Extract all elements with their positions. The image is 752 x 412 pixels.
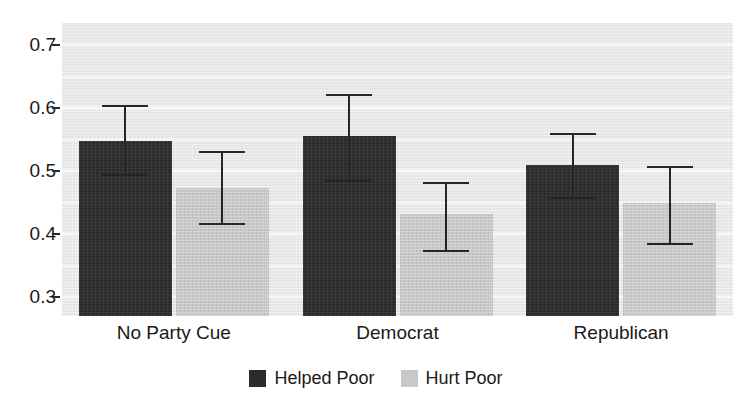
legend-item: Hurt Poor <box>401 368 503 389</box>
error-bar-cap-bottom <box>550 197 596 199</box>
bar-chart-figure: 0.30.40.50.60.7 No Party CueDemocratRepu… <box>0 0 752 412</box>
error-bar-cap-bottom <box>102 174 148 176</box>
error-bar-stem <box>572 133 574 200</box>
y-axis-tick-mark <box>52 44 60 46</box>
error-bar-stem <box>221 151 223 225</box>
error-bar-cap-top <box>550 133 596 135</box>
legend-swatch-hurt <box>401 370 418 387</box>
legend-label: Hurt Poor <box>426 368 503 389</box>
y-axis-tick-mark <box>52 107 60 109</box>
gridline-minor <box>62 76 733 78</box>
error-bar-cap-bottom <box>199 223 245 225</box>
y-axis-tick-mark <box>52 296 60 298</box>
error-bar-cap-top <box>647 166 693 168</box>
y-axis-tick-mark <box>52 233 60 235</box>
error-bar-cap-top <box>423 182 469 184</box>
error-bar-stem <box>445 182 447 251</box>
y-axis-tick-label: 0.6 <box>10 97 56 119</box>
legend-item: Helped Poor <box>249 368 374 389</box>
y-axis-tick-label: 0.4 <box>10 223 56 245</box>
x-axis-category-labels: No Party CueDemocratRepublican <box>62 322 733 352</box>
error-bar-cap-top <box>199 151 245 153</box>
gridline <box>62 107 733 110</box>
error-bar-cap-bottom <box>647 243 693 245</box>
error-bar-cap-top <box>102 105 148 107</box>
x-axis-tick-label: Democrat <box>356 322 438 344</box>
error-bar-cap-top <box>326 94 372 96</box>
plot-panel <box>62 23 733 316</box>
gridline <box>62 44 733 47</box>
error-bar-cap-bottom <box>423 250 469 252</box>
error-bar-stem <box>124 105 126 176</box>
y-axis: 0.30.40.50.60.7 <box>0 0 56 412</box>
y-axis-tick-label: 0.7 <box>10 34 56 56</box>
y-axis-tick-mark <box>52 170 60 172</box>
x-axis-tick-label: No Party Cue <box>117 322 231 344</box>
legend-label: Helped Poor <box>274 368 374 389</box>
chart-legend: Helped PoorHurt Poor <box>0 368 752 389</box>
legend-swatch-helped <box>249 370 266 387</box>
error-bar-stem <box>669 166 671 245</box>
error-bar-cap-bottom <box>326 180 372 182</box>
y-axis-tick-label: 0.3 <box>10 286 56 308</box>
x-axis-tick-label: Republican <box>574 322 669 344</box>
y-axis-tick-label: 0.5 <box>10 160 56 182</box>
error-bar-stem <box>348 94 350 182</box>
